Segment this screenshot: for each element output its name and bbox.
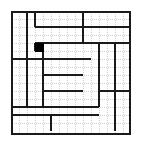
outer-border — [11, 11, 131, 135]
grid-area[interactable] — [11, 11, 131, 135]
puzzle-canvas — [0, 0, 141, 146]
